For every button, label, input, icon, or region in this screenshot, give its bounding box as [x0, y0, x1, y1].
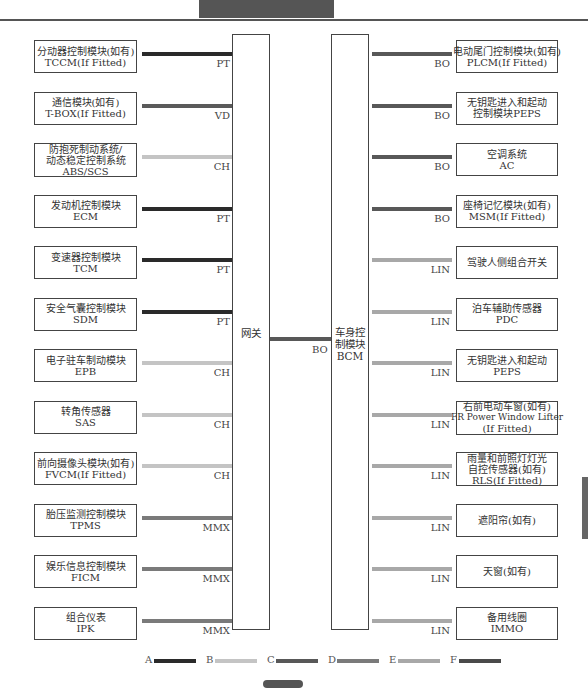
left-protocol-label: CH: [214, 367, 230, 378]
gateway-bus: 网关: [232, 34, 270, 630]
module-label-line: 天窗(如有): [483, 566, 531, 577]
module-label-line: 泊车辅助传感器: [472, 303, 542, 314]
right-module-box: 无钥匙进入和起动控制模块PEPS: [456, 92, 558, 125]
right-bus-connection-line: [372, 413, 452, 417]
header-divider: [0, 19, 588, 21]
right-module-box: 备用线圈IMMO: [456, 607, 558, 640]
right-protocol-label: LIN: [431, 264, 450, 275]
right-protocol-label: LIN: [431, 419, 450, 430]
left-protocol-label: PT: [217, 316, 230, 327]
left-protocol-label: CH: [214, 470, 230, 481]
module-label-line: 发动机控制模块: [51, 200, 121, 211]
legend-letter: D: [328, 654, 336, 665]
right-bus-connection-line: [372, 361, 452, 365]
right-module-box: 泊车辅助传感器PDC: [456, 298, 558, 331]
gateway-label: 网关: [233, 327, 269, 339]
right-module-box: 空调系统AC: [456, 143, 558, 176]
module-label-line: 胎压监测控制模块: [46, 509, 126, 520]
left-bus-connection-line: [142, 310, 232, 314]
right-protocol-label: BO: [434, 110, 450, 121]
left-module-box: 防抱死制动系统/动态稳定控制系统ABS/SCS: [34, 143, 137, 177]
module-label-line: 无钥匙进入和起动: [467, 355, 547, 366]
legend-letter: F: [450, 654, 457, 665]
legend-letter: E: [389, 654, 396, 665]
bcm-label-line: BCM: [332, 350, 368, 362]
left-bus-connection-line: [142, 104, 232, 108]
module-label-line: 无钥匙进入和起动: [467, 97, 547, 108]
right-bus-connection-line: [372, 207, 452, 211]
legend-line-swatch: [154, 659, 196, 663]
right-module-box: 驾驶人侧组合开关: [456, 246, 558, 279]
right-protocol-label: LIN: [431, 573, 450, 584]
module-label-line: 前向摄像头模块(如有): [37, 458, 135, 469]
module-label-line: 通信模块(如有): [52, 97, 120, 108]
right-module-box: 雨量和前照灯灯光自控传感器(如有)RLS(If Fitted): [456, 452, 558, 486]
right-protocol-label: LIN: [431, 625, 450, 636]
legend-letter: B: [206, 654, 213, 665]
module-label-line: PEPS: [493, 366, 521, 377]
module-label-line: 娱乐信息控制模块: [46, 561, 126, 572]
right-module-box: 无钥匙进入和起动PEPS: [456, 349, 558, 382]
module-label-line: 安全气囊控制模块: [46, 303, 126, 314]
left-protocol-label: PT: [217, 213, 230, 224]
bcm-label-line: 制模块: [332, 338, 368, 350]
legend-line-swatch: [398, 659, 440, 663]
left-protocol-label: MMX: [202, 573, 230, 584]
module-label-line: IMMO: [491, 623, 524, 634]
left-module-box: 发动机控制模块ECM: [34, 195, 137, 228]
module-label-line: 空调系统: [487, 149, 527, 160]
left-bus-connection-line: [142, 413, 232, 417]
right-protocol-label: BO: [434, 58, 450, 69]
module-label-line: PDC: [496, 314, 518, 325]
left-module-box: 分动器控制模块(如有)TCCM(If Fitted): [34, 40, 137, 73]
module-label-line: 驾驶人侧组合开关: [467, 257, 547, 268]
page-footer-pill: [263, 680, 303, 688]
left-module-box: 安全气囊控制模块SDM: [34, 298, 137, 331]
left-module-box: 通信模块(如有)T-BOX(If Fitted): [34, 92, 137, 125]
module-label-line: 电动尾门控制模块(如有): [453, 46, 561, 57]
bcm-label: 车身控 制模块 BCM: [332, 326, 368, 362]
left-bus-connection-line: [142, 361, 232, 365]
gateway-bcm-link-protocol: BO: [312, 344, 328, 355]
left-protocol-label: MMX: [202, 522, 230, 533]
left-protocol-label: MMX: [202, 625, 230, 636]
left-bus-connection-line: [142, 52, 232, 56]
module-label-line: IPK: [76, 623, 94, 634]
module-label-line: ECM: [73, 211, 98, 222]
right-bus-connection-line: [372, 464, 452, 468]
left-module-box: 组合仪表IPK: [34, 607, 137, 640]
legend: ABCDEF: [0, 654, 588, 668]
page-header-banner: [199, 0, 334, 18]
module-label-line: ABS/SCS: [62, 166, 108, 177]
right-module-box: 天窗(如有): [456, 555, 558, 588]
left-protocol-label: CH: [214, 419, 230, 430]
module-label-line: SDM: [73, 314, 98, 325]
legend-letter: A: [145, 654, 152, 665]
module-label-line: 电子驻车制动模块: [46, 355, 126, 366]
bcm-label-line: 车身控: [332, 326, 368, 338]
left-module-box: 胎压监测控制模块TPMS: [34, 504, 137, 537]
right-module-box: 电动尾门控制模块(如有)PLCM(If Fitted): [456, 40, 558, 73]
module-label-line: 遮阳帘(如有): [478, 515, 536, 526]
module-label-line: RLS(If Fitted): [472, 475, 542, 486]
module-label-line: FICM: [71, 572, 100, 583]
module-label-line: EPB: [75, 366, 96, 377]
right-bus-connection-line: [372, 258, 452, 262]
right-protocol-label: BO: [434, 161, 450, 172]
right-bus-connection-line: [372, 155, 452, 159]
right-bus-connection-line: [372, 619, 452, 623]
right-bus-connection-line: [372, 516, 452, 520]
right-bus-connection-line: [372, 567, 452, 571]
right-module-box: 座椅记忆模块(如有)MSM(If Fitted): [456, 195, 558, 228]
left-bus-connection-line: [142, 464, 232, 468]
module-label-line: 转角传感器: [61, 406, 111, 417]
legend-line-swatch: [337, 659, 379, 663]
left-bus-connection-line: [142, 567, 232, 571]
module-label-line: PLCM(If Fitted): [467, 57, 547, 68]
module-label-line: MSM(If Fitted): [469, 211, 545, 222]
module-label-line: 防抱死制动系统/: [49, 144, 122, 155]
module-label-line: TPMS: [70, 520, 101, 531]
module-label-line: T-BOX(If Fitted): [45, 108, 126, 119]
left-protocol-label: PT: [217, 264, 230, 275]
right-module-box: 右前电动车窗(如有)FR Power Window Lifter(If Fitt…: [456, 401, 558, 435]
